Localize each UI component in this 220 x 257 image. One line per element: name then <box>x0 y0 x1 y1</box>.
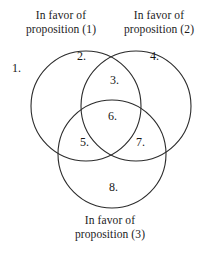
region-label-5: 5. <box>80 136 89 148</box>
region-label-7: 7. <box>136 136 145 148</box>
caption-proposition-3-line1: In favor of <box>63 213 157 227</box>
caption-proposition-3-line2: proposition (3) <box>63 227 157 241</box>
region-label-4: 4. <box>150 50 159 62</box>
region-label-1: 1. <box>12 62 21 74</box>
region-label-6: 6. <box>108 110 117 122</box>
region-label-8: 8. <box>109 181 118 193</box>
venn-diagram-page: In favor of proposition (1) In favor of … <box>0 0 220 257</box>
region-label-2: 2. <box>77 50 86 62</box>
region-label-3: 3. <box>110 74 119 86</box>
caption-proposition-3: In favor of proposition (3) <box>63 213 157 241</box>
